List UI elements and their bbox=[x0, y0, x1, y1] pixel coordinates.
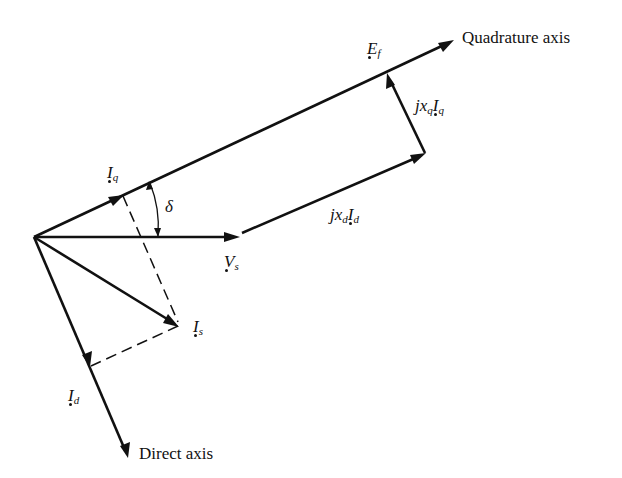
id-label: Id bbox=[68, 387, 79, 406]
direct-axis-label: Direct axis bbox=[139, 445, 213, 462]
delta-label: δ bbox=[165, 198, 173, 215]
is-label: Is bbox=[193, 318, 203, 337]
quadrature-axis-label: Quadrature axis bbox=[462, 29, 570, 46]
jxq-iq-label: jxqIq bbox=[415, 97, 444, 116]
iq-label: Iq bbox=[107, 164, 118, 183]
phasor-diagram bbox=[0, 0, 622, 478]
is-to-id-projection bbox=[91, 326, 178, 366]
vs-label: Vs bbox=[224, 253, 239, 272]
jxd-id-arrowhead bbox=[410, 153, 426, 164]
iq-arrowhead bbox=[108, 195, 124, 206]
delta-arc-arrow-bottom bbox=[154, 228, 161, 237]
quadrature-axis-line bbox=[34, 44, 446, 237]
ef-label: Ef bbox=[367, 40, 380, 59]
is-vector bbox=[34, 237, 172, 322]
is-arrowhead bbox=[163, 314, 179, 327]
quadrature-axis-arrowhead bbox=[438, 40, 454, 52]
vs-arrowhead bbox=[224, 232, 240, 242]
direct-axis-line bbox=[34, 237, 125, 450]
jxd-id-label: jxdId bbox=[330, 206, 359, 225]
jxq-iq-vector bbox=[391, 82, 425, 153]
